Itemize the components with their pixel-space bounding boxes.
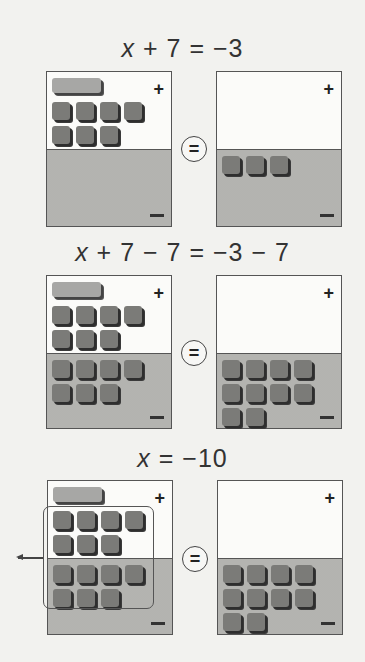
unit-tile-negative [271,589,289,607]
unit-tile-negative [246,360,264,378]
right-mat-step-3: + [217,480,343,635]
equals-icon: = [182,546,208,572]
unit-tile-negative [247,589,265,607]
plus-icon: + [154,489,165,507]
negative-region [217,353,341,428]
negative-region [47,353,171,428]
equation-rest: + 7 − 7 = −3 − 7 [89,238,290,266]
remove-arrow-icon [18,557,43,559]
unit-tile-positive [52,330,70,348]
unit-tile-positive [76,102,94,120]
plus-icon: + [324,489,335,507]
left-mat-step-2: + [46,275,172,429]
unit-tile-positive [76,330,94,348]
unit-tile-positive [52,126,70,144]
positive-region: + [217,276,341,353]
negative-region [217,149,341,226]
right-mat-step-1: + [216,71,342,227]
unit-tile-negative [294,384,312,402]
unit-tile-positive [100,126,118,144]
unit-tile-negative [223,613,241,631]
equation-step-3: x = −10 [0,444,365,473]
equation-step-2: x + 7 − 7 = −3 − 7 [0,238,365,267]
equals-icon: = [181,136,207,162]
unit-tile-positive [52,102,70,120]
x-tile [53,487,102,502]
unit-tile-negative [76,384,94,402]
unit-tile-negative [52,384,70,402]
unit-tile-negative [295,589,313,607]
unit-tile-negative [246,156,264,174]
equation-rest: + 7 = −3 [135,34,243,62]
unit-tile-negative [270,156,288,174]
negative-region [218,558,342,634]
equation-step-1: x + 7 = −3 [0,34,365,63]
unit-tile-negative [246,384,264,402]
unit-tile-negative [223,565,241,583]
unit-tile-negative [222,360,240,378]
minus-icon [151,622,165,625]
unit-tile-negative [271,565,289,583]
variable-x: x [75,238,89,266]
unit-tile-negative [247,565,265,583]
unit-tile-positive [52,306,70,324]
unit-tile-negative [100,384,118,402]
unit-tile-negative [76,360,94,378]
unit-tile-negative [223,589,241,607]
unit-tile-positive [76,126,94,144]
unit-tile-negative [247,613,265,631]
unit-tile-negative [222,384,240,402]
unit-tile-negative [295,565,313,583]
unit-tile-negative [100,360,118,378]
unit-tile-negative [222,408,240,426]
variable-x: x [122,34,136,62]
minus-icon [320,214,334,217]
negative-region [47,149,171,226]
minus-icon [150,214,164,217]
positive-region: + [218,481,342,558]
x-tile [52,78,101,93]
minus-icon [320,416,334,419]
unit-tile-positive [100,330,118,348]
positive-region: + [217,72,341,149]
equation-rest: = −10 [151,444,228,472]
unit-tile-positive [124,306,142,324]
positive-region: + [47,276,171,353]
right-mat-step-2: + [216,275,342,429]
unit-tile-negative [222,156,240,174]
minus-icon [150,416,164,419]
positive-region: + [47,72,171,149]
unit-tile-negative [294,360,312,378]
unit-tile-negative [52,360,70,378]
unit-tile-positive [76,306,94,324]
unit-tile-positive [124,102,142,120]
unit-tile-positive [100,102,118,120]
plus-icon: + [153,284,164,302]
minus-icon [321,622,335,625]
unit-tile-negative [270,384,288,402]
unit-tile-negative [246,408,264,426]
unit-tile-positive [100,306,118,324]
x-tile [52,282,101,297]
equals-icon: = [181,340,207,366]
unit-tile-negative [124,360,142,378]
unit-tile-negative [270,360,288,378]
plus-icon: + [153,80,164,98]
zero-pair-group-outline [43,506,154,609]
plus-icon: + [323,284,334,302]
plus-icon: + [323,80,334,98]
left-mat-step-1: + [46,71,172,227]
variable-x: x [137,444,151,472]
